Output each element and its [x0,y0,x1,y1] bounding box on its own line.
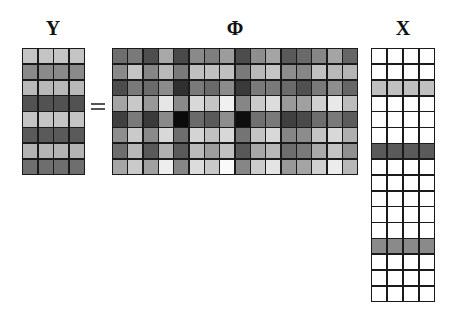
matrix-cell [328,112,342,126]
matrix-cell [23,128,37,142]
matrix-cell [174,96,188,110]
matrix-cell [174,128,188,142]
matrix-cell [312,65,326,79]
matrix-cell [54,144,68,158]
matrix-cell [113,65,127,79]
matrix-cell [404,271,418,285]
matrix-cell [220,128,234,142]
matrix-cell [220,96,234,110]
matrix-cell [54,65,68,79]
matrix-cell [420,112,434,126]
matrix-cell [159,112,173,126]
matrix-cell [420,97,434,111]
matrix-cell [113,112,127,126]
matrix-cell [328,144,342,158]
matrix-cell [297,160,311,174]
matrix-cell [312,49,326,63]
matrix-cell [328,160,342,174]
matrix-cell [404,65,418,79]
matrix-cell [266,49,280,63]
matrix-cell [266,128,280,142]
matrix-cell [328,49,342,63]
matrix-cell [282,96,296,110]
matrix-cell [70,49,84,63]
matrix-cell [23,65,37,79]
matrix-cell [70,65,84,79]
matrix-cell [404,287,418,301]
matrix-cell [372,160,386,174]
matrix-cell [388,160,402,174]
matrix-cell [205,65,219,79]
matrix-cell [266,160,280,174]
matrix-cell [266,65,280,79]
matrix-cell [205,128,219,142]
matrix-cell [343,160,357,174]
matrix-cell [190,81,204,95]
matrix-cell [282,128,296,142]
matrix-cell [388,144,402,158]
matrix-cell [388,81,402,95]
matrix-cell [159,160,173,174]
matrix-cell [343,112,357,126]
matrix-cell [23,112,37,126]
matrix-cell [23,49,37,63]
matrix-cell [39,49,53,63]
matrix-cell [420,287,434,301]
matrix-cell [144,144,158,158]
matrix-cell [144,49,158,63]
matrix-cell [282,160,296,174]
matrix-cell [220,144,234,158]
matrix-cell [144,112,158,126]
matrix-cell [220,81,234,95]
matrix-cell [420,65,434,79]
matrix-cell [266,96,280,110]
matrix-cell [23,81,37,95]
matrix-cell [388,207,402,221]
matrix-cell [388,176,402,190]
matrix-cell [420,160,434,174]
matrix-cell [39,112,53,126]
matrix-cell [404,128,418,142]
matrix-cell [236,49,250,63]
matrix-cell [220,65,234,79]
matrix-cell [205,144,219,158]
matrix-cell [190,160,204,174]
matrix-cell [236,160,250,174]
matrix-cell [174,112,188,126]
matrix-cell [343,96,357,110]
matrix-cell [420,192,434,206]
matrix-cell [159,81,173,95]
label-y: Y [46,16,60,40]
matrix-cell [54,160,68,174]
matrix-cell [420,223,434,237]
matrix-cell [312,144,326,158]
matrix-cell [220,160,234,174]
matrix-cell [297,96,311,110]
matrix-cell [266,81,280,95]
matrix-cell [128,65,142,79]
matrix-cell [388,192,402,206]
matrix-cell [251,96,265,110]
matrix-cell [388,223,402,237]
matrix-cell [113,96,127,110]
matrix-cell [343,128,357,142]
matrix-cell [282,81,296,95]
matrix-cell [54,81,68,95]
matrix-cell [23,96,37,110]
matrix-cell [404,97,418,111]
matrix-cell [372,239,386,253]
label-x: X [396,16,410,40]
matrix-cell [372,112,386,126]
matrix-cell [144,96,158,110]
matrix-cell [388,97,402,111]
matrix-cell [144,65,158,79]
matrix-cell [39,65,53,79]
matrix-cell [128,112,142,126]
matrix-cell [388,287,402,301]
label-phi: Φ [227,16,244,40]
matrix-cell [251,160,265,174]
matrix-cell [420,176,434,190]
matrix-cell [190,112,204,126]
matrix-cell [236,81,250,95]
matrix-cell [372,81,386,95]
